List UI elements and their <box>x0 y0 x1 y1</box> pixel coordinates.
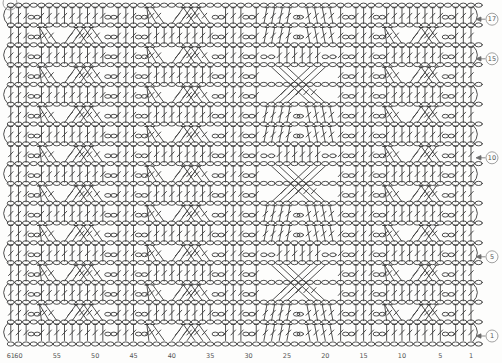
column-label-30: 30 <box>244 352 252 360</box>
stitch-row-15 <box>9 47 474 63</box>
crochet-chart-page: 1715105161605550454035302520151051 <box>0 0 502 363</box>
column-label-40: 40 <box>168 352 176 360</box>
stitch-row-14 <box>9 67 474 83</box>
stitch-row-10 <box>9 146 474 162</box>
stitch-row-1 <box>9 325 474 341</box>
row-label-10: 10 <box>476 152 498 164</box>
column-label-15: 15 <box>359 352 367 360</box>
svg-text:1: 1 <box>490 332 494 340</box>
stitch-row-4 <box>9 265 474 281</box>
row-label-5: 5 <box>476 251 498 263</box>
row-label-17: 17 <box>476 13 498 25</box>
stitch-row-2 <box>9 305 474 321</box>
stitch-row-7 <box>9 206 474 222</box>
row-label-1: 1 <box>476 330 498 342</box>
column-label-55: 55 <box>53 352 61 360</box>
column-label-45: 45 <box>129 352 137 360</box>
stitch-row-5 <box>9 245 474 261</box>
left-arrow-icon <box>476 156 481 160</box>
column-label-50: 50 <box>91 352 99 360</box>
stitch-row-6 <box>9 226 474 242</box>
stitch-row-9 <box>9 166 474 182</box>
column-label-60: 60 <box>14 352 22 360</box>
column-label-10: 10 <box>398 352 406 360</box>
column-label-5: 5 <box>438 352 442 360</box>
svg-text:5: 5 <box>490 253 494 261</box>
column-labels: 61605550454035302520151051 <box>7 352 473 360</box>
stitch-row-12 <box>9 107 474 123</box>
column-label-35: 35 <box>206 352 214 360</box>
stitch-row-11 <box>9 127 474 143</box>
svg-text:10: 10 <box>488 154 496 162</box>
column-label-1: 1 <box>469 352 473 360</box>
svg-text:15: 15 <box>488 55 496 63</box>
stitch-row-16 <box>9 28 474 44</box>
row-label-15: 15 <box>476 53 498 65</box>
column-label-20: 20 <box>321 352 329 360</box>
crochet-stitch-diagram: 1715105161605550454035302520151051 <box>0 0 502 363</box>
svg-text:17: 17 <box>488 15 496 23</box>
stitch-row-17 <box>9 8 474 24</box>
column-label-25: 25 <box>283 352 291 360</box>
